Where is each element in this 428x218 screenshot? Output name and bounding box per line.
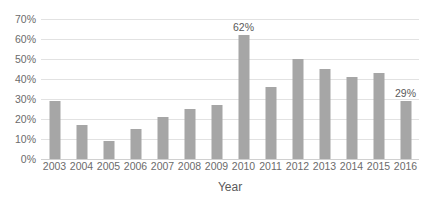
x-axis-tick-label: 2007 (151, 161, 174, 172)
bar (319, 69, 330, 159)
y-axis-tick-label: 40% (15, 74, 36, 85)
x-axis-tick-label: 2004 (70, 161, 93, 172)
x-axis-tick-label: 2015 (367, 161, 390, 172)
y-axis-tick-label: 60% (15, 34, 36, 45)
x-axis-tick-label: 2008 (178, 161, 201, 172)
bar-slot (338, 19, 365, 159)
y-axis-tick-label: 70% (15, 14, 36, 25)
bar (130, 129, 141, 159)
x-axis-tick-label: 2010 (232, 161, 255, 172)
bar-series: 62%29% (41, 19, 419, 159)
x-axis-tick-label: 2005 (97, 161, 120, 172)
y-axis-tick-labels: 0%10%20%30%40%50%60%70% (0, 19, 36, 159)
x-axis-tick-label: 2011 (259, 161, 282, 172)
bar-chart: 0%10%20%30%40%50%60%70% 62%29% 200320042… (0, 0, 428, 218)
bar (184, 109, 195, 159)
bar (49, 101, 60, 159)
bar-slot (311, 19, 338, 159)
x-axis-tick-label: 2013 (313, 161, 336, 172)
bar-slot (122, 19, 149, 159)
bar-slot (284, 19, 311, 159)
bar (157, 117, 168, 159)
bar (373, 73, 384, 159)
bar (292, 59, 303, 159)
bar (103, 141, 114, 159)
y-axis-tick-label: 20% (15, 114, 36, 125)
bar (265, 87, 276, 159)
bar-slot (68, 19, 95, 159)
bar-value-label: 62% (233, 22, 254, 33)
bar (400, 101, 411, 159)
plot-area: 62%29% (41, 19, 419, 159)
x-axis-tick-label: 2006 (124, 161, 147, 172)
y-axis-tick-label: 30% (15, 94, 36, 105)
x-axis-tick-labels: 2003200420052006200720082009201020112012… (41, 161, 419, 177)
bar-slot (257, 19, 284, 159)
y-axis-tick-label: 10% (15, 134, 36, 145)
bar-slot (365, 19, 392, 159)
bar-slot (149, 19, 176, 159)
bar-slot (176, 19, 203, 159)
bar-slot (203, 19, 230, 159)
x-axis-tick-label: 2014 (340, 161, 363, 172)
bar-slot (41, 19, 68, 159)
bar (76, 125, 87, 159)
bar (346, 77, 357, 159)
x-axis-title: Year (41, 181, 419, 193)
x-axis-tick-label: 2009 (205, 161, 228, 172)
bar (211, 105, 222, 159)
bar-slot: 62% (230, 19, 257, 159)
x-axis-tick-label: 2012 (286, 161, 309, 172)
y-axis-tick-label: 0% (21, 154, 36, 165)
bar-slot: 29% (392, 19, 419, 159)
bar-slot (95, 19, 122, 159)
x-axis-tick-label: 2003 (43, 161, 66, 172)
y-axis-tick-label: 50% (15, 54, 36, 65)
bar-value-label: 29% (395, 88, 416, 99)
bar (238, 35, 249, 159)
x-axis-tick-label: 2016 (394, 161, 417, 172)
